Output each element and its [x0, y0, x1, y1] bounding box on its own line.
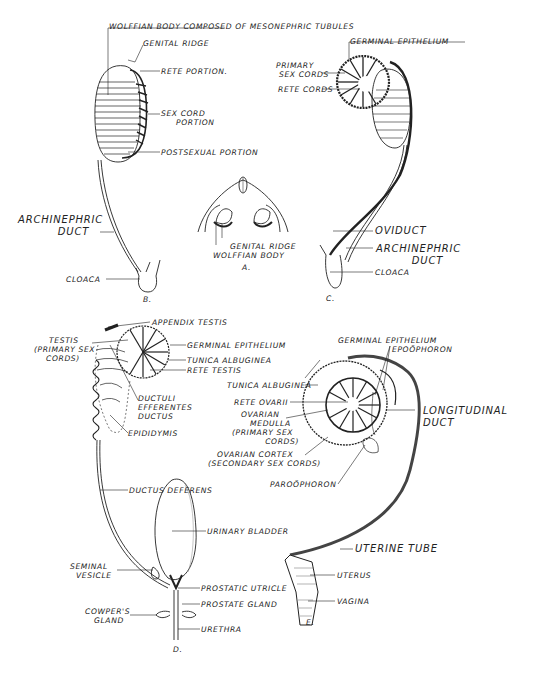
label-appendix-testis: APPENDIX TESTIS: [152, 318, 228, 327]
label-genital-ridge-a: GENITAL RIDGE: [230, 242, 296, 251]
label-archinephric-duct-b: ARCHINEPHRIC DUCT: [18, 214, 103, 238]
label-genital-ridge-b: GENITAL RIDGE: [143, 39, 209, 48]
label-vagina: VAGINA: [337, 597, 369, 606]
label-ductus-deferens: DUCTUS DEFERENS: [129, 486, 213, 495]
label-rete-portion: RETE PORTION.: [161, 67, 228, 76]
leader-lines: [92, 28, 465, 629]
label-germinal-epithelium-e: GERMINAL EPITHELIUM: [338, 336, 437, 345]
label-wolffian-body-mesonephric-tubules: WOLFFIAN BODY COMPOSED OF MESONEPHRIC TU…: [109, 22, 354, 31]
label-rete-testis: RETE TESTIS: [187, 366, 241, 375]
panel-b-drawing: [95, 66, 160, 292]
label-prostate-gland: PROSTATE GLAND: [201, 600, 277, 609]
label-cloaca-b: CLOACA: [66, 275, 101, 284]
label-tunica-albuginea-e: TUNICA ALBUGINEA: [227, 381, 312, 390]
label-urethra: URETHRA: [201, 625, 242, 634]
label-postsexual-portion: POSTSEXUAL PORTION: [161, 148, 258, 157]
label-rete-ovarii: RETE OVARII: [234, 398, 288, 407]
label-cloaca-c: CLOACA: [375, 268, 410, 277]
label-prostatic-utricle: PROSTATIC UTRICLE: [201, 584, 287, 593]
caption-c: C.: [326, 294, 335, 303]
label-longitudinal-duct: LONGITUDINAL DUCT: [423, 405, 508, 429]
label-ovarian-medulla: OVARIAN MEDULLA (PRIMARY SEX CORDS): [232, 410, 299, 446]
label-ductuli-efferentes: DUCTULI EFFERENTES DUCTUS: [138, 394, 192, 421]
caption-e: E.: [306, 618, 314, 627]
panel-e-drawing: [285, 356, 419, 625]
label-oviduct: OVIDUCT: [375, 225, 426, 237]
label-rete-cords: RETE CORDS: [278, 85, 333, 94]
label-seminal-vesicle: SEMINAL VESICLE: [70, 562, 112, 580]
panel-d-drawing: [93, 325, 196, 640]
label-epoophoron: EPOÖPHORON: [392, 345, 453, 354]
label-epididymis: EPIDIDYMIS: [128, 429, 178, 438]
caption-a: A.: [242, 263, 251, 272]
label-uterine-tube: UTERINE TUBE: [355, 543, 438, 555]
caption-d: D.: [173, 645, 182, 654]
label-archinephric-duct-c: ARCHINEPHRIC DUCT: [376, 243, 461, 267]
panel-a-drawing: [198, 177, 288, 245]
label-sex-cord-portion: SEX CORD PORTION: [161, 109, 215, 127]
label-germinal-epithelium-d: GERMINAL EPITHELIUM: [187, 341, 286, 350]
label-paroophoron: PAROÖPHORON: [270, 480, 336, 489]
label-wolffian-body-a: WOLFFIAN BODY: [213, 251, 284, 260]
label-testis: TESTIS (PRIMARY SEX CORDS): [34, 336, 95, 363]
label-cowpers-gland: COWPER'S GLAND: [85, 607, 130, 625]
label-ovarian-cortex: OVARIAN CORTEX (SECONDARY SEX CORDS): [208, 450, 321, 468]
label-germinal-epithelium-c: GERMINAL EPITHELIUM: [350, 37, 449, 46]
label-primary-sex-cords: PRIMARY SEX CORDS: [276, 61, 329, 79]
label-tunica-albuginea-d: TUNICA ALBUGINEA: [187, 356, 272, 365]
embryology-figure: WOLFFIAN BODY COMPOSED OF MESONEPHRIC TU…: [0, 0, 538, 674]
label-uterus: UTERUS: [337, 571, 371, 580]
caption-b: B.: [143, 295, 152, 304]
label-urinary-bladder: URINARY BLADDER: [207, 527, 289, 536]
